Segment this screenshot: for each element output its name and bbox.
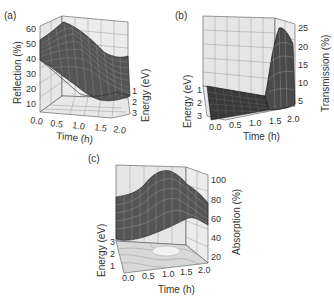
reflection-surface-plot: (a) 60 50 40 30 20 10 Reflection (%) 0.0…: [0, 0, 170, 150]
svg-text:1.5: 1.5: [269, 116, 282, 126]
z-axis-ticks: 60 50 40 30 20 10: [26, 24, 36, 109]
svg-text:0.0: 0.0: [30, 115, 44, 127]
transmission-surface-plot: (b) 25 20 15 10 5 Transmission (%) 1 2 3…: [165, 0, 334, 150]
svg-text:1: 1: [197, 85, 202, 95]
svg-text:2.0: 2.0: [113, 124, 127, 136]
y-axis-label: Energy (eV): [140, 69, 151, 122]
z-axis-ticks: 25 20 15 10 5: [298, 23, 308, 106]
svg-text:2: 2: [132, 97, 137, 107]
panel-c-absorption: (c) 100 80 60 40 20 Absorption (%) 3 2 1…: [80, 145, 260, 302]
svg-text:20: 20: [211, 252, 221, 262]
svg-text:2: 2: [197, 98, 202, 108]
y-axis-ticks: 1 2 3: [132, 86, 137, 118]
panel-b-transmission: (b) 25 20 15 10 5 Transmission (%) 1 2 3…: [165, 0, 334, 150]
svg-text:1: 1: [132, 86, 137, 96]
z-axis-label: Transmission (%): [320, 35, 331, 112]
y-axis-label: Energy (eV): [182, 75, 193, 128]
panel-c-label: (c): [88, 153, 100, 164]
y-axis-ticks: 3 2 1: [110, 237, 115, 271]
x-axis-label: Time (h): [56, 130, 94, 145]
svg-text:5: 5: [298, 96, 303, 106]
svg-text:0.5: 0.5: [229, 120, 242, 130]
x-axis-label: Time (h): [158, 284, 195, 295]
svg-text:50: 50: [26, 39, 36, 49]
svg-text:15: 15: [298, 60, 308, 70]
svg-text:1.0: 1.0: [249, 118, 262, 128]
svg-text:2.0: 2.0: [287, 114, 300, 124]
absorption-surface-plot: (c) 100 80 60 40 20 Absorption (%) 3 2 1…: [80, 145, 260, 302]
svg-text:2.0: 2.0: [198, 265, 211, 275]
svg-text:10: 10: [298, 78, 308, 88]
svg-text:1: 1: [110, 261, 115, 271]
svg-text:2: 2: [110, 249, 115, 259]
svg-text:10: 10: [26, 99, 36, 109]
svg-text:30: 30: [26, 69, 36, 79]
svg-text:100: 100: [211, 175, 226, 185]
svg-text:20: 20: [26, 84, 36, 94]
svg-text:1.5: 1.5: [94, 122, 108, 134]
svg-text:80: 80: [211, 195, 221, 205]
svg-text:40: 40: [211, 233, 221, 243]
svg-text:60: 60: [26, 24, 36, 34]
svg-text:25: 25: [298, 23, 308, 33]
z-axis-label: Absorption (%): [231, 189, 242, 255]
panel-a-label: (a): [4, 10, 16, 21]
svg-text:0.5: 0.5: [50, 118, 64, 130]
z-axis-label: Reflection (%): [12, 41, 23, 104]
y-axis-ticks: 1 2 3: [197, 85, 202, 121]
svg-text:3: 3: [132, 108, 137, 118]
panel-b-label: (b): [175, 10, 187, 21]
svg-text:40: 40: [26, 54, 36, 64]
y-axis-label: Energy (eV): [96, 224, 107, 277]
svg-text:0.0: 0.0: [122, 273, 135, 283]
svg-text:1.0: 1.0: [162, 269, 175, 279]
svg-text:0.5: 0.5: [142, 271, 155, 281]
svg-text:3: 3: [110, 237, 115, 247]
panel-a-reflection: (a) 60 50 40 30 20 10 Reflection (%) 0.0…: [0, 0, 170, 150]
z-axis-ticks: 100 80 60 40 20: [211, 175, 226, 262]
x-axis-label: Time (h): [243, 131, 280, 142]
svg-text:0.0: 0.0: [209, 122, 222, 132]
svg-text:60: 60: [211, 214, 221, 224]
svg-text:1.5: 1.5: [180, 267, 193, 277]
svg-text:3: 3: [197, 111, 202, 121]
svg-text:20: 20: [298, 42, 308, 52]
svg-text:1.0: 1.0: [72, 120, 86, 132]
